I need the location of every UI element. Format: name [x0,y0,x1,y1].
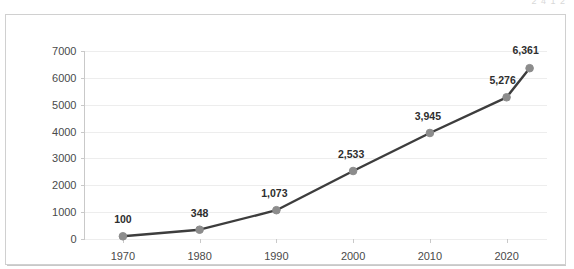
x-axis-label-1990: 1990 [264,250,288,262]
data-point-marker-1990[interactable] [273,206,281,214]
chart-container: 2 4 1 2 01000200030004000500060007000 19… [0,0,574,269]
line-chart-plot: 01000200030004000500060007000 1970198019… [0,0,574,269]
y-axis-label-7000: 7000 [52,45,76,57]
y-axis-label-1000: 1000 [52,206,76,218]
x-axis-label-1980: 1980 [187,250,211,262]
data-point-marker-2000[interactable] [349,167,357,175]
x-axis-label-1970: 1970 [111,250,135,262]
data-point-label-2020: 5,276 [489,74,515,86]
data-point-marker-2020[interactable] [503,94,511,102]
data-point-marker-1980[interactable] [196,226,204,234]
y-axis-label-6000: 6000 [52,72,76,84]
series-line [123,68,530,236]
y-axis-tick-labels: 01000200030004000500060007000 [52,45,76,245]
data-point-marker-1970[interactable] [119,233,127,241]
series-markers-group [119,64,533,240]
data-point-label-2010: 3,945 [415,110,441,122]
data-point-label-1970: 100 [114,213,132,225]
y-axis-label-3000: 3000 [52,152,76,164]
y-axis-label-5000: 5000 [52,99,76,111]
tick-marks-group [81,52,508,244]
data-point-marker-2010[interactable] [426,129,434,137]
y-axis-label-2000: 2000 [52,179,76,191]
x-axis-label-2000: 2000 [341,250,365,262]
data-point-label-2000: 2,533 [338,148,364,160]
y-axis-label-0: 0 [70,233,76,245]
data-point-labels-group: 1003481,0732,5333,9455,2766,361 [114,44,539,225]
data-point-marker-2023[interactable] [526,64,534,72]
y-axis-label-4000: 4000 [52,126,76,138]
x-axis-tick-labels: 197019801990200020102020 [111,250,519,262]
x-axis-label-2010: 2010 [418,250,442,262]
data-point-label-1990: 1,073 [261,187,287,199]
gridlines-group [85,52,548,240]
data-point-label-1980: 348 [191,207,209,219]
data-point-label-2023: 6,361 [512,44,538,56]
x-axis-label-2020: 2020 [494,250,518,262]
